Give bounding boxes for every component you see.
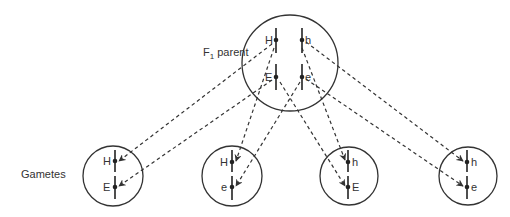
locus-dot [274, 38, 279, 43]
locus-dot [300, 38, 305, 43]
locus-dot [113, 159, 118, 164]
locus-dot [113, 185, 118, 190]
allele-label: E [352, 181, 359, 193]
locus-dot [346, 185, 351, 190]
allele-label: E [103, 181, 110, 193]
arrow-h-to-gamete-1 [119, 44, 272, 161]
locus-dot [274, 75, 279, 80]
locus-dot [465, 160, 470, 165]
locus-dot [346, 160, 351, 165]
meiosis-diagram: F1 parent Gametes H h E e [0, 0, 510, 217]
locus-dot [230, 185, 235, 190]
parent-cell: H h E e [242, 15, 338, 111]
locus-dot [465, 185, 470, 190]
segregation-arrows [119, 42, 463, 186]
gamete-membrane [320, 147, 378, 205]
locus-dot [300, 75, 305, 80]
gamete-3: h E [320, 147, 378, 205]
allele-label: e [471, 181, 477, 193]
gamete-membrane [83, 146, 143, 206]
arrow-h-lower-to-gamete-4 [306, 42, 463, 161]
parent-cell-membrane [242, 15, 338, 111]
gamete-2: H e [202, 146, 262, 206]
allele-label: H [103, 155, 111, 167]
allele-label: h [471, 156, 477, 168]
arrow-e-to-gamete-2 [236, 82, 300, 186]
gametes-label: Gametes [21, 168, 66, 180]
allele-label: H [220, 156, 228, 168]
allele-label: e [305, 71, 311, 83]
allele-label: h [352, 156, 358, 168]
gamete-1: H E [83, 146, 143, 206]
allele-label: e [221, 181, 227, 193]
locus-dot [230, 160, 235, 165]
